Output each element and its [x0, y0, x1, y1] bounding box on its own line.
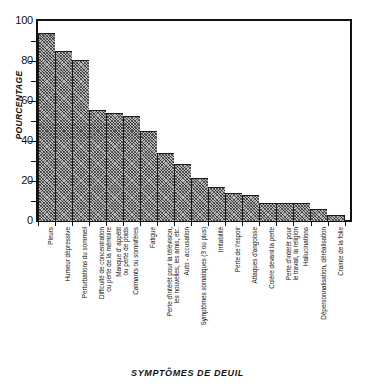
x-axis-category-label: Perturbations du sommeil: [72, 227, 89, 357]
bar: [225, 193, 242, 221]
x-axis-category-label-text: Calmants ou somnifères: [132, 227, 139, 295]
x-axis-category-label: Humeur dépressive: [55, 227, 72, 357]
x-axis-category-label-text: Symptômes somatiques (3 ou plus): [200, 227, 207, 326]
x-axis-category-label: Manque d' appétitou perte de poids: [106, 227, 123, 357]
x-axis-category-label: Symptômes somatiques (3 ou plus): [192, 227, 209, 357]
x-axis-category-label: Perte d'intérêt pourle travail, la relig…: [277, 227, 294, 357]
x-axis-category-label-line: Dépersonnalisation, déréalisation: [320, 227, 327, 320]
x-axis-category-label-line: Pleurs: [47, 227, 54, 245]
bar: [89, 110, 106, 221]
y-axis-major-tick: [29, 101, 36, 102]
x-axis-category-label: Difficulté de concentrationou perte de l…: [89, 227, 106, 357]
y-axis-major-tick: [29, 141, 36, 142]
x-axis-category-label-line: Perte d'intérêt pour la télévision,: [166, 227, 173, 316]
bar-series: [38, 21, 345, 221]
bar: [191, 178, 208, 221]
bar: [157, 153, 174, 221]
x-axis-category-label-line: Attaques d'angoisse: [251, 227, 258, 283]
x-axis-category-label-text: Irritabilité: [217, 227, 224, 252]
x-axis-category-label-line: Fatigue: [149, 227, 156, 248]
bar: [293, 203, 310, 221]
x-axis-category-label-text: Humeur dépressive: [64, 227, 71, 282]
bar: [140, 131, 157, 221]
bar: [310, 209, 327, 221]
bar: [208, 187, 225, 221]
x-axis-category-label-line: Perturbations du sommeil: [81, 227, 88, 298]
x-axis-category-label-line: Calmants ou somnifères: [132, 227, 139, 295]
x-axis-category-label-text: Pleurs: [47, 227, 54, 245]
x-axis-category-label-line: Hallucinations: [302, 227, 309, 266]
x-axis-category-label-text: Colère devant la perte: [268, 227, 275, 289]
x-axis-category-label: Dépersonnalisation, déréalisation: [311, 227, 328, 357]
y-axis-tick-label: 0: [7, 215, 33, 226]
x-axis-category-label-line: Colère devant la perte: [268, 227, 275, 289]
x-axis-category-label-line: Humeur dépressive: [64, 227, 71, 282]
x-axis-category-label: Attaques d'angoisse: [243, 227, 260, 357]
x-axis-category-label-line: Irritabilité: [217, 227, 224, 252]
x-axis-category-label-text: Hallucinations: [302, 227, 309, 266]
x-axis-category-label: Perte de l'espoir: [226, 227, 243, 357]
x-axis-category-label-line: Auto - accusation: [183, 227, 190, 276]
bar: [123, 116, 140, 221]
bar: [174, 164, 191, 221]
bar-chart-figure: POURCENTAGE 020406080100 PleursHumeur dé…: [0, 0, 375, 388]
x-axis-category-label: Fatigue: [140, 227, 157, 357]
x-axis-category-labels: PleursHumeur dépressivePerturbations du …: [38, 227, 345, 357]
x-axis-category-label-text: Fatigue: [149, 227, 156, 248]
y-axis-major-tick: [29, 181, 36, 182]
bar: [106, 113, 123, 221]
y-axis-tick-labels: 020406080100: [0, 0, 33, 388]
x-axis-category-label: Auto - accusation: [175, 227, 192, 357]
x-axis-category-label: Pleurs: [38, 227, 55, 357]
x-axis-category-label-line: Difficulté de concentration: [98, 227, 105, 299]
x-axis-category-label: Calmants ou somnifères: [123, 227, 140, 357]
x-axis-category-label-text: Crainte de la folie: [337, 227, 344, 276]
x-axis-category-label-line: Perte de l'espoir: [234, 227, 241, 272]
x-axis-category-label-text: Perturbations du sommeil: [81, 227, 88, 298]
bar: [327, 215, 345, 221]
x-axis-category-label-line: Crainte de la folie: [337, 227, 344, 276]
bar: [55, 51, 72, 221]
x-axis-category-label-text: Dépersonnalisation, déréalisation: [320, 227, 327, 320]
x-axis-category-label: Hallucinations: [294, 227, 311, 357]
x-axis-category-label-text: Auto - accusation: [183, 227, 190, 276]
x-axis-category-label-text: Attaques d'angoisse: [251, 227, 258, 283]
x-axis-category-label: Irritabilité: [209, 227, 226, 357]
bar: [242, 195, 259, 221]
x-axis-category-label: Crainte de la folie: [328, 227, 345, 357]
y-axis-major-tick: [29, 61, 36, 62]
x-axis-category-label-line: Symptômes somatiques (3 ou plus): [200, 227, 207, 326]
x-axis-category-label-text: Perte de l'espoir: [234, 227, 241, 272]
x-axis-title: SYMPTÔMES DE DEUIL: [0, 368, 375, 378]
y-axis-tick-label: 100: [7, 15, 33, 26]
x-axis-category-label: Perte d'intérêt pour la télévision,les n…: [157, 227, 174, 357]
bar: [276, 203, 293, 221]
x-axis-category-label: Colère devant la perte: [260, 227, 277, 357]
bar: [38, 33, 55, 221]
bar: [72, 60, 89, 221]
x-axis-category-label-line: Manque d' appétit: [115, 227, 122, 277]
bar: [259, 203, 276, 221]
